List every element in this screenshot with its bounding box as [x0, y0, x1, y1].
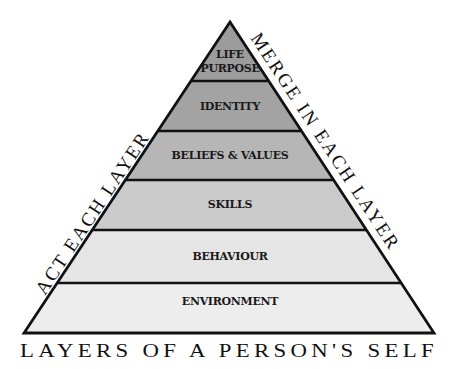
layer-environment-shape [24, 283, 434, 333]
layer-label-life: LIFE [216, 48, 244, 61]
pyramid-diagram: LIFE PURPOSE IDENTITY BELIEFS & VALUES S… [0, 0, 462, 369]
layer-label-identity: IDENTITY [200, 100, 261, 113]
layer-label-environment: ENVIRONMENT [182, 295, 280, 308]
pyramid-canvas: LIFE PURPOSE IDENTITY BELIEFS & VALUES S… [0, 0, 462, 369]
layer-label-behaviour: BEHAVIOUR [192, 250, 268, 263]
diagram-caption: LAYERS OF A PERSON'S SELF [20, 340, 438, 361]
layer-label-skills: SKILLS [208, 198, 253, 211]
layer-label-purpose: PURPOSE [200, 62, 259, 75]
layer-label-beliefs-values: BELIEFS & VALUES [172, 149, 289, 162]
